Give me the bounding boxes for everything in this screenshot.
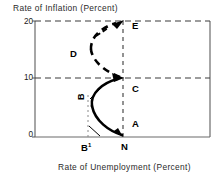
b-prime-base: B [81, 142, 88, 153]
point-label-b-prime: B1 [81, 142, 91, 153]
point-label-c: C [132, 84, 139, 94]
tangent-tick-lower [89, 126, 100, 136]
x-axis-title: Rate of Unemployment (Percent) [58, 163, 191, 171]
tangent-tick-upper [90, 88, 101, 99]
curve-d-to-e [91, 23, 116, 50]
point-label-e: E [132, 21, 138, 31]
phillips-curve-figure: Rate of Inflation (Percent) 20 10 0 [0, 0, 224, 175]
point-label-d: D [70, 49, 77, 59]
point-label-a: A [132, 119, 139, 129]
curve-c-to-d [91, 50, 120, 77]
point-label-b: B [77, 94, 86, 101]
curve-b-to-c [92, 79, 117, 106]
b-prime-superscript: 1 [88, 142, 91, 148]
point-label-n: N [121, 142, 128, 152]
plot-area [0, 0, 224, 175]
